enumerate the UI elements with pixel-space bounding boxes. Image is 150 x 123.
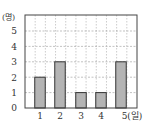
bar-chart: (명) 5 4 3 2 1 0 1 2 3 4 5(일) [0, 0, 150, 123]
bar-day-5 [116, 62, 127, 108]
x-tick-1: 1 [37, 111, 43, 121]
bar-day-2 [55, 62, 66, 108]
bar-day-4 [96, 93, 107, 108]
y-tick-1: 1 [11, 88, 17, 98]
y-tick-5: 5 [11, 26, 17, 36]
y-tick-4: 4 [11, 42, 17, 52]
x-tick-4: 4 [98, 111, 104, 121]
bar-day-1 [35, 77, 46, 108]
y-tick-3: 3 [11, 57, 17, 67]
bar-day-3 [76, 93, 87, 108]
x-tick-3: 3 [78, 111, 84, 121]
y-axis-unit: (명) [2, 12, 15, 22]
y-tick-2: 2 [11, 73, 17, 83]
y-tick-0: 0 [11, 103, 17, 113]
x-tick-2: 2 [57, 111, 63, 121]
x-tick-5-with-unit: 5(일) [122, 111, 143, 121]
bars [35, 62, 127, 108]
